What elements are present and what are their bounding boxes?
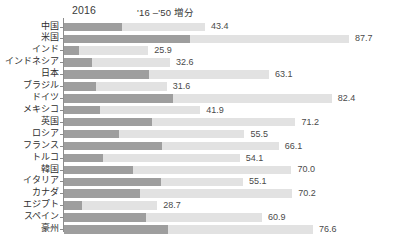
- bar-value-label: 54.1: [246, 153, 264, 163]
- stacked-bar: [64, 23, 205, 31]
- category-label: 英国: [0, 116, 59, 128]
- bar-row: ブラジル31.6: [0, 81, 399, 93]
- category-label: 豪州: [0, 223, 59, 235]
- category-label: 中国: [0, 21, 59, 33]
- bar-segment-2016: [64, 166, 133, 174]
- stacked-bar: [64, 118, 295, 126]
- bar-value-label: 28.7: [163, 200, 181, 210]
- bar-value-label: 70.2: [298, 188, 316, 198]
- plot-area: 中国43.4米国87.7インド25.9インドネシア32.6日本63.1ブラジル3…: [0, 18, 399, 236]
- legend-label-increment: '16 –'50 増分: [137, 5, 195, 19]
- category-label: インドネシア: [0, 56, 59, 68]
- bar-row: フランス66.1: [0, 140, 399, 152]
- bar-segment-increment: [119, 130, 245, 138]
- bar-row: インドネシア32.6: [0, 57, 399, 69]
- bar-value-label: 71.2: [301, 117, 319, 127]
- bar-row: 韓国70.0: [0, 164, 399, 176]
- bar-segment-increment: [161, 178, 244, 186]
- stacked-bar: [64, 130, 244, 138]
- stacked-bar: [64, 178, 243, 186]
- bar-row: トルコ54.1: [0, 152, 399, 164]
- category-label: ブラジル: [0, 80, 59, 92]
- bar-row: スペイン60.9: [0, 212, 399, 224]
- bar-row: ロシア55.5: [0, 128, 399, 140]
- bar-segment-2016: [64, 154, 103, 162]
- category-label: スペイン: [0, 211, 59, 223]
- category-label: ロシア: [0, 128, 59, 140]
- stacked-bar: [64, 35, 349, 43]
- bar-segment-increment: [82, 201, 157, 209]
- bar-segment-increment: [149, 70, 270, 78]
- bar-value-label: 55.1: [249, 176, 267, 186]
- stacked-bar: [64, 201, 157, 209]
- bar-value-label: 76.6: [319, 224, 337, 234]
- bar-segment-increment: [122, 23, 206, 31]
- bar-value-label: 25.9: [154, 45, 172, 55]
- bar-segment-2016: [64, 201, 82, 209]
- bar-value-label: 66.1: [285, 141, 303, 151]
- bar-segment-2016: [64, 142, 162, 150]
- category-label: ドイツ: [0, 92, 59, 104]
- bar-segment-2016: [64, 213, 146, 221]
- category-label: 米国: [0, 32, 59, 44]
- stacked-bar: [64, 94, 332, 102]
- bar-segment-increment: [100, 106, 200, 114]
- bar-segment-increment: [168, 225, 313, 233]
- stacked-bar: [64, 154, 240, 162]
- bar-value-label: 32.6: [176, 57, 194, 67]
- bar-segment-2016: [64, 46, 79, 54]
- bar-segment-increment: [103, 154, 240, 162]
- bar-segment-2016: [64, 106, 100, 114]
- bar-segment-increment: [162, 142, 278, 150]
- bar-segment-2016: [64, 225, 168, 233]
- bar-segment-2016: [64, 82, 96, 90]
- bar-segment-2016: [64, 58, 92, 66]
- bar-row: 豪州76.6: [0, 224, 399, 236]
- stacked-bar: [64, 142, 279, 150]
- bar-segment-increment: [96, 82, 167, 90]
- legend-label-2016: 2016: [72, 4, 96, 16]
- bar-segment-increment: [92, 58, 170, 66]
- stacked-bar: [64, 166, 292, 174]
- bar-segment-increment: [152, 118, 295, 126]
- stacked-bar: [64, 58, 170, 66]
- bar-segment-increment: [133, 166, 292, 174]
- bar-segment-increment: [190, 35, 349, 43]
- bar-value-label: 43.4: [211, 21, 229, 31]
- chart-header: 2016 '16 –'50 増分: [0, 4, 399, 18]
- category-label: インド: [0, 44, 59, 56]
- bar-value-label: 55.5: [250, 129, 268, 139]
- category-label: 韓国: [0, 164, 59, 176]
- stacked-bar: [64, 225, 313, 233]
- bar-row: イタリア55.1: [0, 176, 399, 188]
- bar-row: 英国71.2: [0, 116, 399, 128]
- bar-value-label: 41.9: [206, 105, 224, 115]
- stacked-bar: [64, 213, 262, 221]
- bar-row: インド25.9: [0, 45, 399, 57]
- bar-segment-2016: [64, 189, 140, 197]
- bar-row: ドイツ82.4: [0, 93, 399, 105]
- bar-segment-2016: [64, 178, 161, 186]
- bar-segment-increment: [79, 46, 149, 54]
- bar-value-label: 63.1: [275, 69, 293, 79]
- bar-segment-increment: [140, 189, 292, 197]
- bar-segment-2016: [64, 118, 152, 126]
- bar-row: 米国87.7: [0, 33, 399, 45]
- stacked-bar: [64, 46, 148, 54]
- category-label: メキシコ: [0, 104, 59, 116]
- bar-segment-2016: [64, 94, 173, 102]
- category-label: イタリア: [0, 175, 59, 187]
- bar-row: メキシコ41.9: [0, 104, 399, 116]
- stacked-bar: [64, 106, 200, 114]
- category-label: 日本: [0, 68, 59, 80]
- bar-row: 日本63.1: [0, 69, 399, 81]
- bar-value-label: 82.4: [338, 93, 356, 103]
- bar-segment-2016: [64, 35, 190, 43]
- bar-row: エジプト28.7: [0, 200, 399, 212]
- bar-row: カナダ70.2: [0, 188, 399, 200]
- stacked-bar: [64, 189, 292, 197]
- bar-segment-2016: [64, 70, 149, 78]
- category-label: カナダ: [0, 187, 59, 199]
- bar-value-label: 60.9: [268, 212, 286, 222]
- bar-segment-increment: [146, 213, 262, 221]
